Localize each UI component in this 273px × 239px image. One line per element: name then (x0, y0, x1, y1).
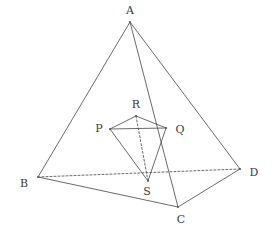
edge-CD (178, 169, 240, 207)
edge-AD (130, 22, 240, 169)
vertex-label-r: R (132, 99, 140, 110)
vertex-dot-r (135, 115, 137, 117)
vertex-markers (37, 21, 241, 208)
vertex-dot-q (165, 127, 167, 129)
edge-PR (110, 116, 136, 129)
vertex-label-b: B (20, 178, 28, 189)
geometry-figure: ABCDPQRS (0, 0, 273, 239)
edge-RS (136, 116, 148, 181)
vertex-dot-s (147, 180, 149, 182)
edge-PS (110, 129, 148, 181)
edge-AB (38, 22, 130, 177)
edge-QS (148, 128, 166, 181)
vertex-dot-d (239, 168, 241, 170)
vertex-label-s: S (143, 186, 151, 197)
vertex-label-q: Q (175, 124, 184, 135)
vertex-dot-c (177, 206, 179, 208)
geometry-canvas (0, 0, 273, 239)
edge-BD (38, 169, 240, 177)
vertex-dot-a (129, 21, 131, 23)
vertex-label-c: C (177, 214, 185, 225)
outer-tetrahedron-edges (38, 22, 240, 207)
vertex-label-a: A (126, 5, 134, 16)
vertex-label-d: D (250, 167, 259, 178)
vertex-dot-p (109, 128, 111, 130)
vertex-label-p: P (95, 123, 102, 134)
edge-QR (136, 116, 166, 128)
edge-BC (38, 177, 178, 207)
vertex-dot-b (37, 176, 39, 178)
edge-AC (130, 22, 178, 207)
inner-tetrahedron-edges (110, 116, 166, 181)
